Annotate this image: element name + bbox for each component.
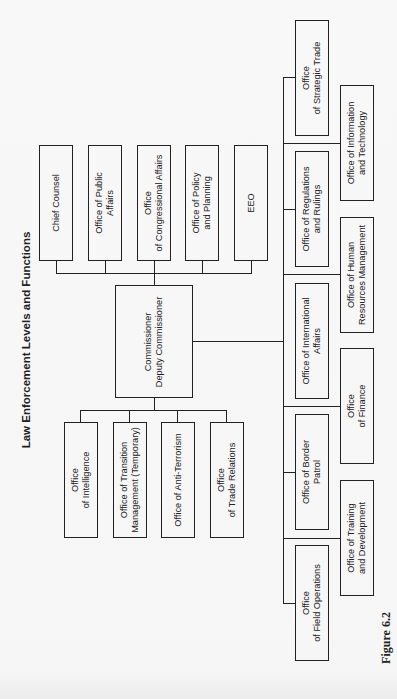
chart-title: Law Enforcement Levels and Functions [20, 232, 32, 449]
box-label: EEO [246, 193, 257, 212]
org-chart-page: Law Enforcement Levels and Functions Chi… [0, 0, 397, 699]
connector-line [154, 397, 155, 411]
connector-line [226, 410, 227, 422]
connector-line [154, 261, 155, 285]
box-border-patrol: Office of Border Patrol [295, 414, 329, 530]
box-label: Office of Strategic Trade [301, 42, 323, 115]
box-trade-relations: Office of Trade Relations [210, 422, 244, 538]
box-label: Commissioner Deputy Commissioner [143, 296, 165, 386]
box-information-technology: Office of Information and Technology [340, 85, 374, 201]
connector-line [192, 341, 284, 342]
box-eeo: EEO [234, 145, 268, 261]
box-commissioner: Commissioner Deputy Commissioner [115, 285, 193, 398]
box-international-affairs: Office of International Affairs [295, 283, 329, 399]
connector-line [56, 261, 57, 274]
box-label: Office of Training and Development [346, 502, 368, 574]
connector-line [283, 209, 295, 210]
figure-caption: Figure 6.2 [379, 612, 394, 664]
box-field-operations: Office of Field Operations [295, 545, 329, 661]
connector-line [202, 261, 203, 274]
connector-line [129, 410, 130, 422]
connector-line [283, 603, 295, 604]
connector-line [177, 410, 178, 422]
connector-line [80, 410, 81, 422]
box-label: Office of Field Operations [301, 564, 323, 642]
box-label: Office of International Affairs [301, 297, 323, 384]
box-regulations-rulings: Office of Regulations and Rulings [295, 151, 329, 267]
connector-line [283, 538, 340, 539]
box-label: Office of Congressional Affairs [143, 155, 165, 252]
box-label: Office of Intelligence [70, 452, 92, 509]
box-public-affairs: Office of Public Affairs [88, 145, 122, 261]
connector-line [105, 261, 106, 274]
box-label: Office of Public Affairs [94, 172, 116, 234]
connector-line [283, 274, 340, 275]
box-label: Office of Transition Management (Tempora… [119, 427, 141, 533]
box-intelligence: Office of Intelligence [64, 422, 98, 538]
box-policy-planning: Office of Policy and Planning [185, 145, 219, 261]
connector-line [80, 410, 227, 411]
box-label: Office of Border Patrol [301, 440, 323, 504]
connector-line [283, 77, 284, 604]
box-finance: Office of Finance [340, 348, 374, 464]
connector-line [283, 472, 295, 473]
box-congressional-affairs: Office of Congressional Affairs [137, 145, 171, 261]
box-label: Office of Policy and Planning [191, 172, 213, 233]
connector-line [251, 261, 252, 274]
box-label: Chief Counsel [51, 174, 62, 232]
box-transition-management: Office of Transition Management (Tempora… [113, 422, 147, 538]
box-label: Office of Information and Technology [346, 102, 368, 185]
box-label: Office of Anti-Terrorism [173, 433, 184, 526]
connector-line [283, 77, 295, 78]
box-label: Office of Trade Relations [216, 443, 238, 518]
box-label: Office of Regulations and Rulings [301, 166, 323, 251]
box-label: Office of Human Resources Management [346, 225, 368, 325]
box-label: Office of Finance [346, 385, 368, 428]
box-chief-counsel: Chief Counsel [39, 145, 73, 261]
box-human-resources: Office of Human Resources Management [340, 217, 374, 333]
box-training-development: Office of Training and Development [340, 480, 374, 596]
connector-line [283, 143, 340, 144]
box-anti-terrorism: Office of Anti-Terrorism [161, 422, 195, 538]
connector-line [283, 406, 340, 407]
box-strategic-trade: Office of Strategic Trade [295, 20, 329, 136]
